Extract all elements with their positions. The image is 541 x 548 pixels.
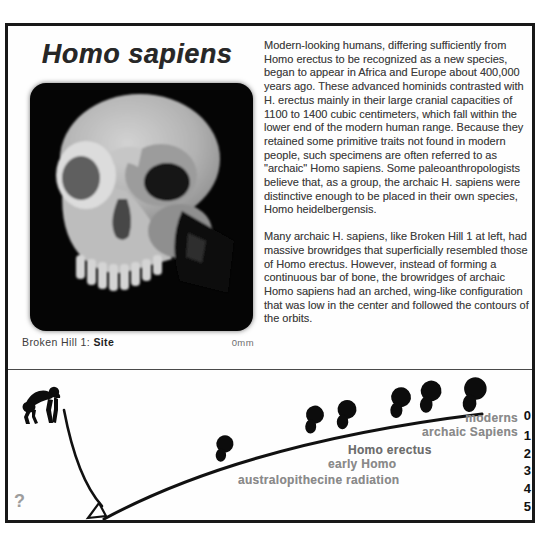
- article-paragraph-2: Many archaic H. sapiens, like Broken Hil…: [264, 230, 530, 326]
- hominid-skull-silhouette: [455, 375, 491, 415]
- site-link[interactable]: Site: [93, 336, 114, 348]
- axis-tick-0: 0: [519, 408, 531, 423]
- hominid-skull-silhouette: [299, 404, 328, 437]
- timeline-plot: [8, 372, 532, 520]
- hominid-skull-silhouette: [413, 378, 447, 416]
- axis-tick-4: 4: [519, 481, 531, 496]
- ape-branch-curve: [64, 410, 102, 506]
- axis-tick-1: 1: [519, 428, 531, 443]
- question-mark: ?: [14, 491, 25, 512]
- article-paragraph-1: Modern-looking humans, differing suffici…: [264, 39, 530, 217]
- page-title: Homo sapiens: [20, 39, 254, 70]
- content-frame: Homo sapiens: [5, 23, 535, 523]
- hominid-skull-silhouette: [210, 433, 238, 464]
- label-homo-erectus: Homo erectus: [348, 443, 432, 457]
- photo-caption: Broken Hill 1: Site 0mm: [22, 336, 254, 348]
- scale-readout: 0mm: [232, 337, 254, 348]
- label-early-homo: early Homo: [328, 457, 396, 471]
- article-text: Modern-looking humans, differing suffici…: [264, 39, 530, 326]
- label-archaic-sapiens: archaic Sapiens: [422, 425, 518, 439]
- ape-silhouette: [23, 387, 61, 424]
- hominid-skull-silhouette: [383, 385, 415, 421]
- caption-specimen: Broken Hill 1:: [22, 336, 90, 348]
- axis-tick-3: 3: [519, 463, 531, 478]
- axis-tick-5: 5: [519, 499, 531, 514]
- branch-arrowhead: [88, 503, 106, 518]
- label-australopithecine: australopithecine radiation: [238, 473, 399, 487]
- section-divider: [8, 369, 532, 370]
- skull-image: [30, 83, 253, 331]
- skull-photo: [30, 83, 253, 331]
- evolution-timeline: moderns archaic Sapiens Homo erectus ear…: [8, 372, 532, 520]
- caption-text: Broken Hill 1: Site: [22, 336, 114, 348]
- hominid-skull-silhouette: [330, 398, 361, 432]
- label-moderns: moderns: [465, 411, 518, 425]
- axis-tick-2: 2: [519, 446, 531, 461]
